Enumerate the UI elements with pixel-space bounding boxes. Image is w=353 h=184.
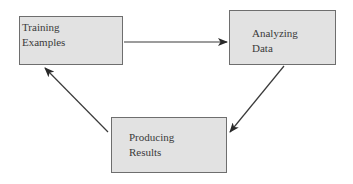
node-label-line-2: Examples: [22, 35, 122, 50]
node-analyzing-data: Analyzing Data: [229, 10, 336, 65]
node-label-line-2: Data: [252, 41, 335, 56]
node-label-line-1: Analyzing: [252, 26, 335, 41]
node-training-examples: Training Examples: [19, 16, 123, 65]
node-label-line-1: Training: [22, 20, 122, 35]
arrow-producing-to-training: [45, 68, 108, 132]
learning-cycle-diagram: Training Examples Analyzing Data Produci…: [0, 0, 353, 184]
node-label-line-2: Results: [129, 145, 226, 160]
arrow-analyzing-to-producing: [230, 66, 284, 132]
node-label-line-1: Producing: [129, 130, 226, 145]
node-producing-results: Producing Results: [111, 117, 227, 173]
